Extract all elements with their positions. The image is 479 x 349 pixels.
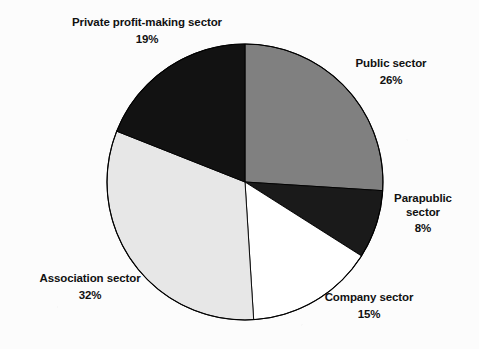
slice-label-parapublic-sector: Parapublic sector 8% [383, 192, 463, 236]
slice-label-public-sector: Public sector 26% [332, 57, 450, 87]
slice-label-text: Public sector [332, 57, 450, 71]
slice-label-company-sector: Company sector 15% [310, 291, 428, 321]
slice-label-text-second-line: sector [383, 206, 463, 220]
slice-label-percent: 19% [55, 33, 239, 47]
slice-label-text: Company sector [310, 291, 428, 305]
slice-label-percent: 8% [383, 222, 463, 236]
slice-label-percent: 32% [18, 289, 162, 303]
slice-label-private-profit-making-sector: Private profit-making sector 19% [55, 16, 239, 46]
pie-chart-figure: Private profit-making sector 19% Public … [0, 0, 479, 349]
slice-label-text: Association sector [18, 272, 162, 286]
slice-label-percent: 15% [310, 308, 428, 322]
slice-label-percent: 26% [332, 74, 450, 88]
slice-label-association-sector: Association sector 32% [18, 272, 162, 302]
slice-label-text: Parapublic [383, 192, 463, 206]
slice-label-text: Private profit-making sector [55, 16, 239, 30]
